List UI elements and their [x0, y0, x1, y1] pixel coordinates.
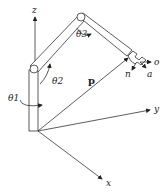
- a-axis-label: a: [147, 69, 152, 79]
- elbow-joint: [77, 13, 85, 21]
- gripper: [128, 51, 146, 65]
- z-axis-label: z: [31, 5, 37, 15]
- theta1-label: θ1: [8, 93, 19, 103]
- upper-arm-link: [30, 16, 84, 72]
- y-axis-label: y: [153, 104, 160, 114]
- shoulder-joint: [30, 65, 38, 73]
- x-axis: [38, 131, 102, 179]
- base-link: [29, 70, 38, 131]
- theta2-label: θ2: [52, 76, 63, 86]
- end-effector-n-axis: [132, 63, 136, 70]
- n-axis-label: n: [125, 69, 131, 79]
- robot-arm-diagram: z y x p o a n θ1: [0, 0, 167, 193]
- x-axis-label: x: [106, 178, 111, 188]
- y-axis: [38, 110, 150, 131]
- position-vector: [38, 58, 128, 131]
- theta3-label: θ3: [76, 29, 87, 39]
- o-axis-label: o: [154, 57, 160, 67]
- position-vector-label: p: [88, 75, 95, 86]
